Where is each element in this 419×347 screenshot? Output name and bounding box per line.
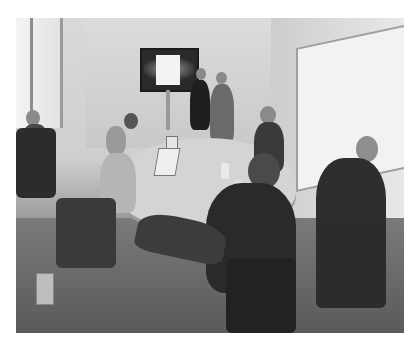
meeting-room-photo	[16, 18, 404, 333]
mesh-chair	[56, 198, 116, 268]
office-chair	[316, 218, 386, 308]
standing-person-2-head	[216, 72, 227, 84]
tv-cable	[166, 90, 170, 130]
wall-mounted-tv	[140, 48, 199, 92]
standing-person-2	[210, 84, 234, 144]
standing-person-1	[190, 80, 210, 130]
paper-on-floor	[36, 273, 54, 305]
seated-person-woman-head	[106, 126, 126, 156]
office-chair	[16, 128, 56, 198]
window	[16, 18, 63, 128]
office-chair	[226, 258, 296, 333]
cup	[221, 163, 229, 179]
seated-person-back-head	[124, 113, 138, 129]
standing-person-1-head	[196, 68, 206, 80]
tv-screen-document	[156, 55, 180, 85]
